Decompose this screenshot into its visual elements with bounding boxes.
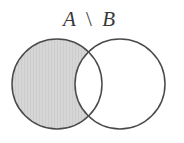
caption-set-a: A: [61, 7, 76, 31]
caption-set-b: B: [102, 7, 115, 31]
diagram-caption: A \ B: [61, 7, 115, 31]
venn-diagram-canvas: A \ B: [0, 0, 184, 143]
caption-operator: \: [86, 7, 92, 31]
venn-diagram-figure: A \ B: [0, 0, 184, 143]
